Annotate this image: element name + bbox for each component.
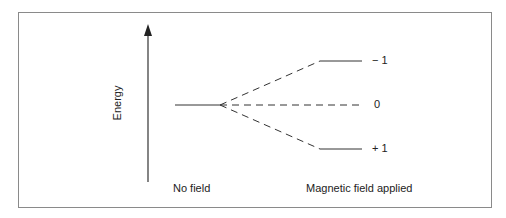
energy-axis-label: Energy (111, 83, 123, 123)
no-field-caption: No field (173, 182, 210, 194)
level-label-plus-one: + 1 (372, 142, 388, 154)
diagram-frame (19, 13, 492, 208)
level-label-minus-one: − 1 (372, 54, 388, 66)
energy-level-diagram (0, 0, 506, 218)
split-line-plus-one (220, 105, 320, 149)
magnetic-field-applied-caption: Magnetic field applied (306, 182, 412, 194)
level-label-zero: 0 (374, 98, 380, 110)
split-line-minus-one (220, 61, 320, 105)
energy-axis-arrowhead-icon (144, 24, 152, 36)
